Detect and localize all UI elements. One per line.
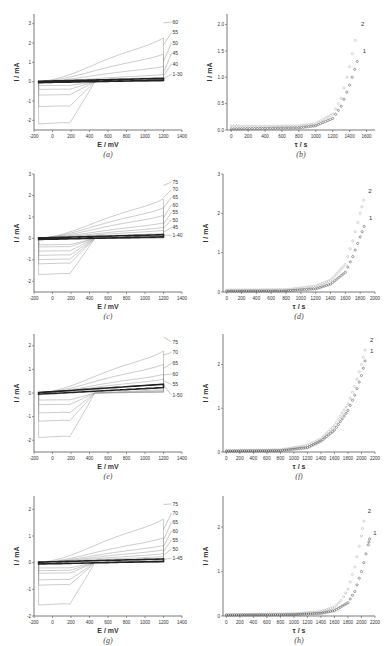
y-axis-label: I / mA bbox=[202, 546, 209, 565]
y-tick-label: -2 bbox=[27, 118, 32, 123]
scatter-series-2 bbox=[225, 349, 366, 452]
x-tick-label: 1200 bbox=[158, 296, 169, 301]
x-tick-label: 1000 bbox=[296, 296, 307, 301]
x-tick-label: 400 bbox=[250, 620, 258, 625]
x-tick-label: 1600 bbox=[329, 620, 340, 625]
y-tick-label: 1 bbox=[28, 367, 31, 372]
x-axis-label: E / mV bbox=[97, 303, 119, 310]
x-tick-label: 800 bbox=[277, 620, 285, 625]
y-tick-label: 1.5 bbox=[218, 49, 225, 54]
x-tick-label: 0 bbox=[51, 134, 54, 139]
series-label: 50 bbox=[173, 40, 179, 46]
scatter-series-1 bbox=[225, 360, 366, 452]
panel-caption: (g) bbox=[103, 636, 113, 645]
x-tick-label: 1200 bbox=[311, 296, 322, 301]
series-label: 1 bbox=[373, 530, 377, 536]
series-label: 55 bbox=[173, 381, 179, 387]
x-tick-label: 200 bbox=[67, 134, 75, 139]
y-tick-label: -2 bbox=[27, 438, 32, 443]
scatter-series-1 bbox=[226, 225, 366, 292]
x-tick-label: 1600 bbox=[340, 296, 351, 301]
x-tick-label: 400 bbox=[86, 456, 94, 461]
x-tick-label: 600 bbox=[278, 134, 286, 139]
x-tick-label: 1800 bbox=[343, 456, 354, 461]
x-tick-label: 800 bbox=[277, 456, 285, 461]
x-tick-label: 400 bbox=[86, 134, 94, 139]
series-label: 2 bbox=[368, 188, 372, 194]
y-axis-label: I / mA bbox=[13, 62, 20, 81]
y-axis-label: I / mA bbox=[202, 383, 209, 402]
x-tick-label: 1600 bbox=[329, 456, 340, 461]
x-tick-label: 400 bbox=[253, 296, 261, 301]
x-tick-label: 1000 bbox=[140, 456, 151, 461]
x-tick-label: 400 bbox=[86, 296, 94, 301]
x-tick-label: 600 bbox=[263, 620, 271, 625]
x-axis-label: E / mV bbox=[97, 627, 119, 634]
x-tick-label: 800 bbox=[123, 134, 131, 139]
scatter-series-2 bbox=[225, 520, 365, 616]
y-tick-label: 1 bbox=[28, 60, 31, 65]
x-tick-label: 800 bbox=[123, 620, 131, 625]
series-label: 55 bbox=[173, 209, 179, 215]
chart-d: 0200400600800100012001400160018002000012… bbox=[193, 158, 386, 320]
x-axis-label: τ / s bbox=[295, 141, 308, 148]
y-tick-label: 1 bbox=[28, 534, 31, 539]
y-tick-label: 2 bbox=[28, 343, 31, 348]
series-label: 50 bbox=[173, 217, 179, 223]
x-tick-label: 1200 bbox=[158, 134, 169, 139]
x-tick-label: 1000 bbox=[289, 456, 300, 461]
series-label: 70 bbox=[173, 349, 179, 355]
chart-panel-a: -2000200400600800100012001400-2-10123E /… bbox=[0, 0, 195, 160]
x-tick-label: -200 bbox=[29, 296, 39, 301]
chart-g: -2000200400600800100012001400-2-1012E / … bbox=[0, 478, 195, 646]
x-tick-label: 2000 bbox=[370, 296, 381, 301]
series-label: 1-30 bbox=[173, 71, 183, 77]
y-tick-label: -1 bbox=[27, 99, 32, 104]
y-tick-label: 2 bbox=[28, 193, 31, 198]
x-tick-label: 1400 bbox=[316, 456, 327, 461]
chart-a: -2000200400600800100012001400-2-10123E /… bbox=[0, 0, 195, 160]
x-tick-label: 600 bbox=[104, 456, 112, 461]
x-tick-label: 200 bbox=[238, 296, 246, 301]
x-tick-label: 1200 bbox=[302, 456, 313, 461]
series-label: 2 bbox=[368, 508, 372, 514]
series-label: 70 bbox=[173, 510, 179, 516]
scatter-series-2 bbox=[230, 39, 356, 127]
x-tick-label: 1400 bbox=[177, 134, 188, 139]
chart-e: -2000200400600800100012001400-2-1012E / … bbox=[0, 318, 195, 480]
y-tick-label: 2 bbox=[217, 362, 220, 367]
series-label: 65 bbox=[173, 519, 179, 525]
series-label: 1 bbox=[363, 48, 367, 54]
y-axis-label: I / mA bbox=[13, 223, 20, 242]
chart-panel-e: -2000200400600800100012001400-2-1012E / … bbox=[0, 318, 195, 480]
y-tick-label: 0.0 bbox=[218, 128, 225, 133]
chart-h: 0200400600800100012001400160018002000220… bbox=[193, 478, 386, 646]
y-tick-label: 3 bbox=[28, 172, 31, 177]
x-tick-label: 1400 bbox=[177, 296, 188, 301]
x-tick-label: 400 bbox=[261, 134, 269, 139]
series-label: 65 bbox=[173, 360, 179, 366]
x-tick-label: -200 bbox=[29, 456, 39, 461]
scatter-series-2 bbox=[226, 199, 365, 291]
y-axis-label: I / mA bbox=[206, 62, 213, 81]
series-label: 2 bbox=[361, 21, 365, 27]
x-tick-label: 200 bbox=[244, 134, 252, 139]
series-label: 45 bbox=[173, 224, 179, 230]
x-tick-label: 2200 bbox=[370, 620, 381, 625]
series-label: 1-50 bbox=[173, 392, 183, 398]
x-tick-label: 200 bbox=[67, 296, 75, 301]
series-label: 75 bbox=[173, 501, 179, 507]
y-tick-label: 1 bbox=[217, 569, 220, 574]
y-tick-label: -2 bbox=[27, 279, 32, 284]
y-tick-label: 1 bbox=[217, 406, 220, 411]
x-tick-label: 200 bbox=[67, 620, 75, 625]
x-tick-label: 600 bbox=[263, 456, 271, 461]
series-label: 75 bbox=[173, 339, 179, 345]
chart-f: 0200400600800100012001400160018002000220… bbox=[193, 318, 386, 480]
y-tick-label: 1 bbox=[217, 250, 220, 255]
x-tick-label: 800 bbox=[282, 296, 290, 301]
x-tick-label: 600 bbox=[104, 296, 112, 301]
y-tick-label: 2 bbox=[217, 211, 220, 216]
series-label: 60 bbox=[173, 528, 179, 534]
x-tick-label: 1400 bbox=[325, 296, 336, 301]
